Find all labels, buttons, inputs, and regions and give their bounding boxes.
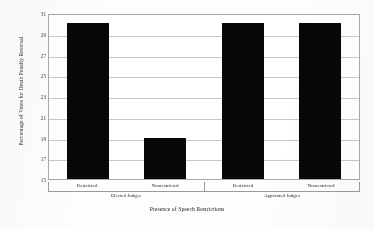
y-tick-label: 31 [24, 11, 46, 17]
bar[interactable] [222, 23, 264, 179]
plot-area [48, 14, 360, 180]
bar-slot [49, 15, 127, 179]
bar-slot [204, 15, 282, 179]
y-tick-label: 29 [24, 32, 46, 38]
x-axis-title: Presence of Speech Restrictions [0, 206, 374, 212]
bar-chart-figure: Percentage of Votes for Death Penalty Re… [0, 0, 374, 229]
y-tick-label: 21 [24, 115, 46, 121]
group-separator-tick [204, 182, 205, 192]
bar-slot [282, 15, 360, 179]
group-separator-tick [359, 182, 360, 192]
group-separator-line [48, 191, 204, 192]
y-tick-label: 23 [24, 94, 46, 100]
group-label: Appointed Judges [264, 193, 300, 198]
y-axis-tick-labels: 151719212325272931 [24, 14, 46, 180]
group-separator-tick [48, 182, 49, 192]
group-separator-line [204, 191, 360, 192]
bar-series [49, 15, 359, 179]
y-tick-label: 17 [24, 156, 46, 162]
y-tick-label: 25 [24, 73, 46, 79]
y-tick-label: 15 [24, 177, 46, 183]
y-tick-label: 27 [24, 53, 46, 59]
bar-slot [127, 15, 205, 179]
bar[interactable] [144, 138, 186, 180]
bar[interactable] [67, 23, 109, 179]
x-axis-group-labels: Elected JudgesAppointed Judges [48, 181, 360, 203]
y-tick-label: 19 [24, 136, 46, 142]
bar[interactable] [299, 23, 341, 179]
group-label: Elected Judges [111, 193, 141, 198]
